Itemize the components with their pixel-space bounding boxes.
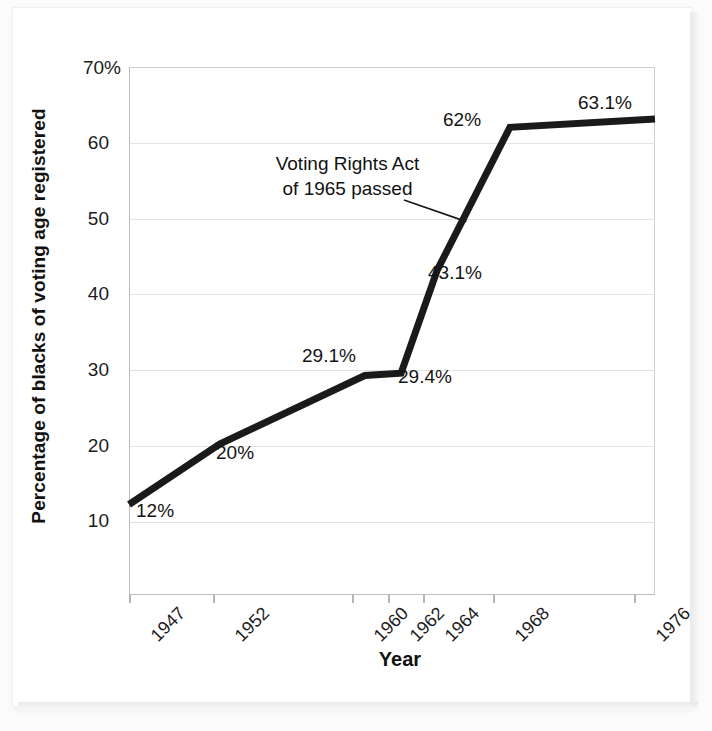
annotation-voting-rights-act: Voting Rights Act of 1965 passed (245, 151, 450, 201)
annotation-line-1: Voting Rights Act (245, 151, 450, 176)
point-label-1960: 29.1% (302, 345, 356, 367)
point-label-1968: 62% (443, 109, 481, 131)
line-chart: 70% 60 50 40 30 20 10 Percentage of blac… (0, 0, 712, 731)
point-label-1952: 20% (216, 442, 254, 464)
annotation-line-2: of 1965 passed (245, 176, 450, 201)
point-label-1962: 29.4% (398, 366, 452, 388)
point-label-1947: 12% (136, 500, 174, 522)
page-background: 70% 60 50 40 30 20 10 Percentage of blac… (0, 0, 712, 731)
point-label-1964: 43.1% (428, 262, 482, 284)
annotation-leader-line (404, 200, 466, 222)
point-label-1976: 63.1% (578, 92, 632, 114)
